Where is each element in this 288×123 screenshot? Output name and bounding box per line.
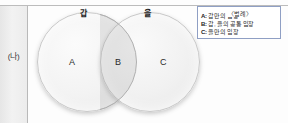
legend-entry-b-text: 갑, 을의 공통 입장	[208, 21, 254, 27]
venn-region-label-b: B	[115, 57, 121, 67]
figure-label: (나)	[0, 52, 27, 62]
venn-figure: (나) 갑 을 A B C 〈범례〉 A: 갑만의 입장 B: 갑, 을의 공통…	[0, 0, 288, 123]
venn-circle-eul-title: 을	[144, 7, 151, 18]
legend-entry-a: A: 갑만의 입장	[201, 12, 280, 20]
legend-entry-c-key: C:	[201, 29, 207, 35]
venn-circle-gap-title: 갑	[80, 7, 87, 18]
legend-box: 〈범례〉 A: 갑만의 입장 B: 갑, 을의 공통 입장 C: 을만의 입장	[197, 6, 281, 39]
legend-entry-a-key: A:	[201, 13, 207, 19]
legend-entry-c: C: 을만의 입장	[201, 28, 280, 36]
venn-region-label-a: A	[69, 57, 75, 67]
legend-entry-b: B: 갑, 을의 공통 입장	[201, 20, 280, 28]
legend-entry-a-text: 갑만의 입장	[208, 13, 238, 19]
venn-region-label-c: C	[160, 57, 167, 67]
legend-entry-c-text: 을만의 입장	[208, 29, 238, 35]
legend-entry-b-key: B:	[201, 21, 207, 27]
figure-label-strip	[0, 6, 27, 123]
